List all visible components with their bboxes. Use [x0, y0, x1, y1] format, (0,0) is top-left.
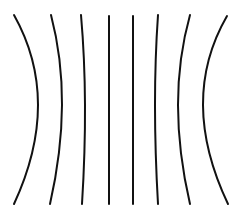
field-line	[178, 15, 190, 204]
diagram-svg	[0, 0, 244, 213]
field-line	[203, 16, 228, 204]
field-line	[50, 15, 62, 204]
field-line	[81, 15, 85, 204]
field-line	[14, 15, 38, 204]
field-line	[155, 15, 158, 204]
field-lines-diagram	[0, 0, 244, 213]
